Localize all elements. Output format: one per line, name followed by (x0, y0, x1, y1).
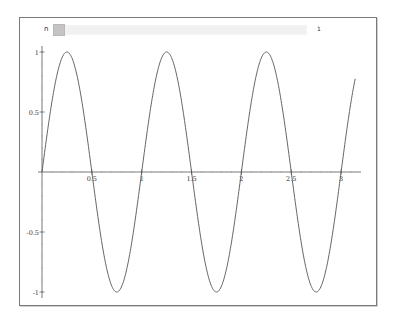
y-tick-label: -1 (33, 289, 39, 297)
y-tick-label: 0.5 (29, 109, 39, 117)
x-tick-label: 2.5 (286, 175, 296, 183)
axes (38, 46, 361, 298)
tick-labels: 0.511.522.5310.5-0.5-1 (26, 49, 343, 297)
x-tick-label: 0.5 (87, 175, 97, 183)
x-tick-label: 1.5 (186, 175, 196, 183)
sine-plot: 0.511.522.5310.5-0.5-1 (0, 0, 394, 323)
y-tick-label: 1 (35, 49, 39, 57)
y-tick-label: -0.5 (26, 229, 39, 237)
